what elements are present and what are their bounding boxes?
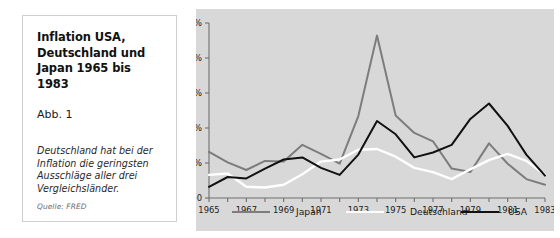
data-series-group <box>209 36 545 188</box>
x-axis-ticks <box>209 198 545 202</box>
y-tick-label: 15% <box>196 88 202 98</box>
x-tick-label: 1965 <box>198 205 219 215</box>
chart-panel: 05%10%15%20%25% 196519671969197119731975… <box>196 9 554 231</box>
y-tick-label: 0 <box>197 193 202 203</box>
series-line-usa <box>209 104 545 187</box>
x-tick-label: 1969 <box>273 205 294 215</box>
y-tick-label: 20% <box>196 53 202 63</box>
series-line-deutschland <box>209 149 545 188</box>
y-axis-labels: 05%10%15%20%25% <box>196 18 202 203</box>
legend-label-usa: USA <box>508 206 528 217</box>
caption-source: Quelle: FRED <box>37 202 162 211</box>
y-axis-ticks <box>205 23 209 198</box>
page-title: Inflation USA, Deutschland und Japan 196… <box>37 30 162 92</box>
legend-label-japan: Japan <box>295 206 322 217</box>
figure-label: Abb. 1 <box>37 108 162 121</box>
caption-note: Deutschland hat bei der Inflation die ge… <box>37 145 162 195</box>
x-tick-label: 1967 <box>236 205 257 215</box>
inflation-line-chart: 05%10%15%20%25% 196519671969197119731975… <box>196 9 554 231</box>
x-tick-label: 1983 <box>534 205 554 215</box>
legend-label-deutschland: Deutschland <box>410 206 468 217</box>
y-tick-label: 5% <box>196 158 202 168</box>
figure-page: Inflation USA, Deutschland und Japan 196… <box>0 0 560 238</box>
caption-panel: Inflation USA, Deutschland und Japan 196… <box>22 15 177 222</box>
y-tick-label: 10% <box>196 123 202 133</box>
y-tick-label: 25% <box>196 18 202 28</box>
x-tick-label: 1975 <box>385 205 406 215</box>
x-tick-label: 1973 <box>348 205 369 215</box>
x-axis-labels: 1965196719691971197319751977197919811983 <box>198 205 554 215</box>
